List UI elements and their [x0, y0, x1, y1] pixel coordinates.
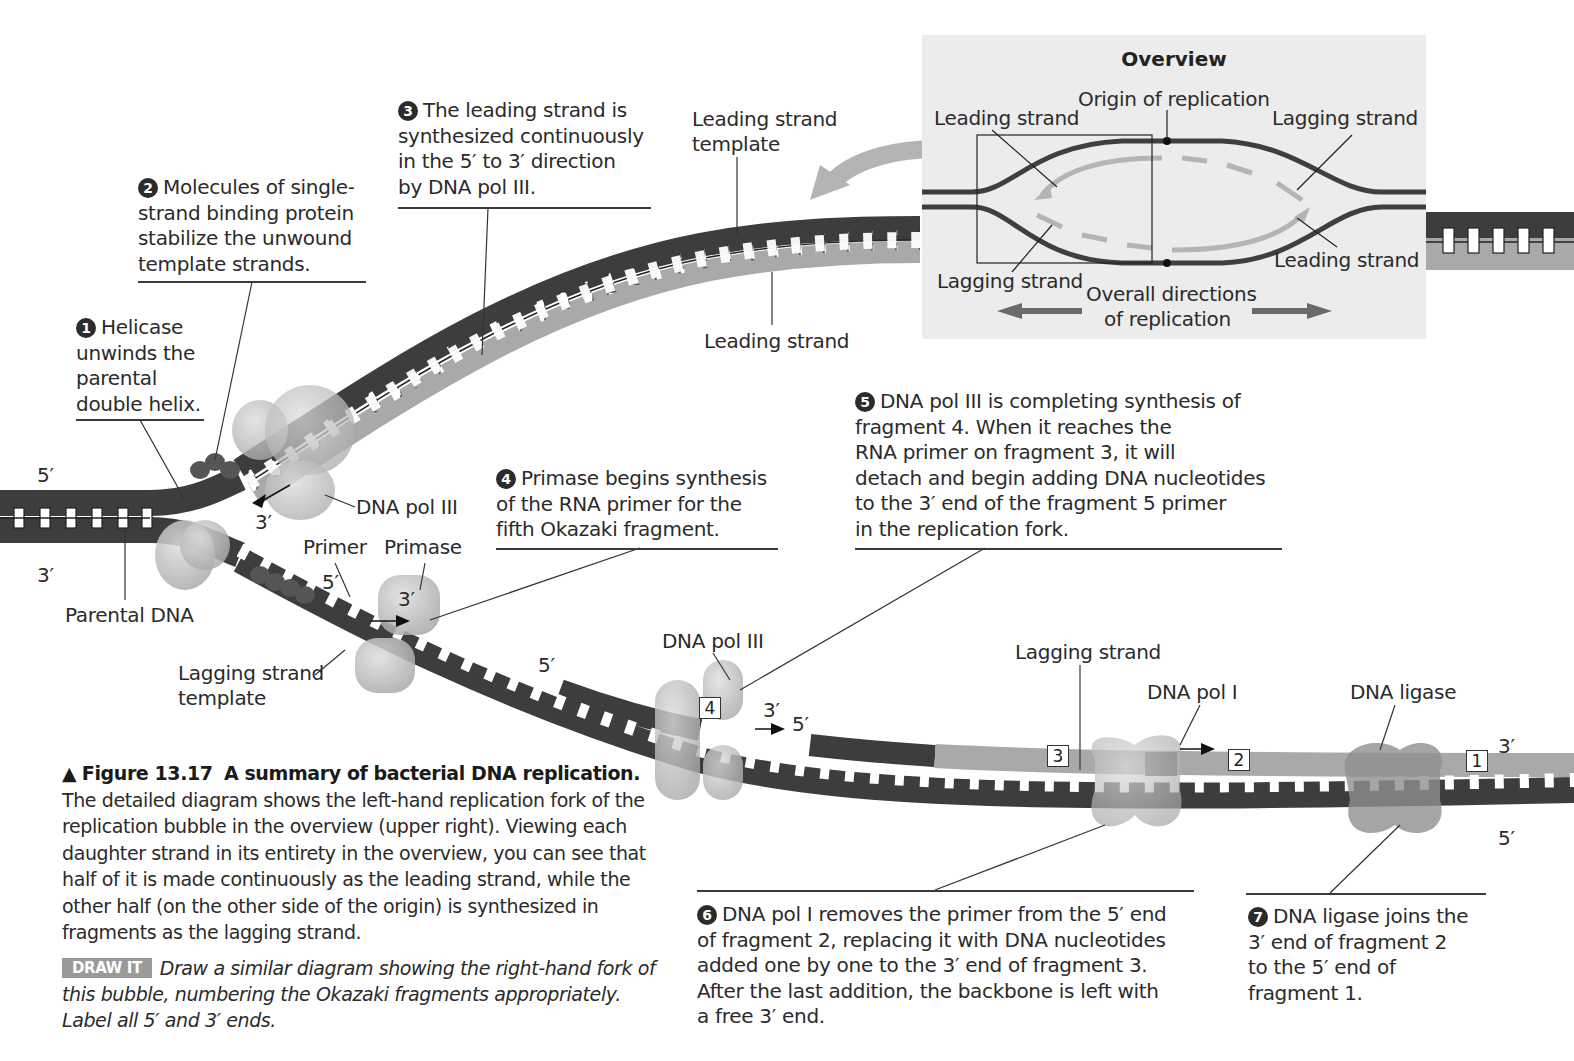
step-4-primase: 4Primase begins synthesis of the RNA pri… — [496, 466, 767, 543]
figure-title: A summary of bacterial DNA replication. — [224, 762, 640, 784]
end-label-5prime: 5′ — [322, 570, 339, 595]
end-label-3prime: 3′ — [37, 563, 54, 588]
lagging-strand-template-label: Lagging strandtemplate — [178, 661, 324, 711]
figure-caption: ▲ Figure 13.17 A summary of bacterial DN… — [62, 760, 662, 946]
dna-pol-i-label: DNA pol I — [1147, 680, 1237, 705]
step-7-rule — [1246, 893, 1486, 895]
step-1-rule — [76, 419, 204, 421]
fragment-3-marker: 3 — [1047, 745, 1069, 767]
step-number-badge: 3 — [398, 101, 418, 121]
step-2-rule — [138, 281, 366, 283]
dna-ligase — [1345, 743, 1442, 833]
helicase — [155, 520, 230, 590]
primer-label: Primer — [303, 535, 367, 560]
dna-ligase-label: DNA ligase — [1350, 680, 1456, 705]
end-label-5prime: 5′ — [538, 653, 555, 678]
dna-pol-i — [1091, 735, 1181, 826]
caption-body: The detailed diagram shows the left-hand… — [62, 789, 646, 944]
step-7-dna-ligase: 7DNA ligase joins the 3′ end of fragment… — [1248, 904, 1468, 1006]
end-label-5prime: 5′ — [1498, 826, 1515, 851]
step-3-rule — [398, 207, 651, 209]
overview-lagging-strand-label-top: Lagging strand — [1272, 106, 1418, 131]
step-number-badge: 7 — [1248, 907, 1268, 927]
end-label-3prime: 3′ — [255, 510, 272, 535]
step-2-ssb: 2Molecules of single- strand binding pro… — [138, 175, 355, 277]
dna-pol-iii-label-top: DNA pol III — [356, 495, 458, 520]
dna-pol-iii-lagging — [655, 660, 743, 800]
caption-marker: ▲ — [62, 762, 76, 784]
step-number-badge: 2 — [138, 178, 158, 198]
dna-replication-figure: Overview — [0, 0, 1574, 1061]
overall-directions-label-2: of replication — [1104, 307, 1231, 332]
fragment-1-marker: 1 — [1466, 750, 1488, 772]
overall-directions-label-1: Overall directions — [1086, 282, 1257, 307]
overview-leading-strand-label-top: Leading strand — [934, 106, 1079, 131]
step-number-badge: 6 — [697, 905, 717, 925]
figure-number: Figure 13.17 — [82, 762, 213, 784]
end-label-5prime: 5′ — [792, 712, 809, 737]
step-5-dna-pol-iii: 5DNA pol III is completing synthesis of … — [855, 389, 1265, 542]
end-label-3prime: 3′ — [398, 587, 415, 612]
step-number-badge: 4 — [496, 469, 516, 489]
primase-label: Primase — [384, 535, 462, 560]
fragment-4-marker: 4 — [699, 697, 721, 719]
fragment-2-marker: 2 — [1228, 749, 1250, 771]
end-label-3prime: 3′ — [1498, 734, 1515, 759]
lagging-strand-label: Lagging strand — [1015, 640, 1161, 665]
step-number-badge: 1 — [76, 318, 96, 338]
step-number-badge: 5 — [855, 392, 875, 412]
step-4-rule — [496, 548, 778, 550]
end-label-5prime: 5′ — [37, 463, 54, 488]
end-label-3prime: 3′ — [763, 698, 780, 723]
overview-lagging-strand-label-bottom: Lagging strand — [937, 269, 1083, 294]
parental-dna-label: Parental DNA — [65, 603, 194, 628]
origin-of-replication-label: Origin of replication — [1078, 87, 1270, 112]
step-1-helicase: 1Helicase unwinds theparentaldouble heli… — [76, 315, 201, 417]
step-6-dna-pol-i: 6DNA pol I removes the primer from the 5… — [697, 902, 1166, 1030]
dna-pol-iii-label-bottom: DNA pol III — [662, 629, 764, 654]
step-6-rule — [697, 890, 1194, 892]
draw-it-badge: DRAW IT — [62, 958, 152, 978]
leading-strand-label: Leading strand — [704, 329, 849, 354]
step-5-rule — [855, 548, 1282, 550]
leading-strand-template-label: Leading strandtemplate — [692, 107, 837, 157]
draw-it-exercise: DRAW ITDraw a similar diagram showing th… — [62, 955, 662, 1033]
right-duplex — [1425, 212, 1574, 270]
overview-leading-strand-label-bottom: Leading strand — [1274, 248, 1419, 273]
overview-panel: Overview — [922, 35, 1426, 339]
step-3-leading-strand: 3The leading strand is synthesized conti… — [398, 98, 644, 200]
